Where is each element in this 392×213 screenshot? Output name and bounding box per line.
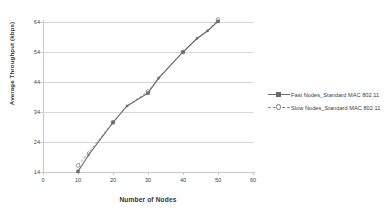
series-line <box>78 21 218 171</box>
data-point-marker <box>88 154 90 156</box>
legend-item-fast-nodes[interactable]: Fast Nodes_Standard MAC 802.11 <box>268 88 392 101</box>
legend-label-slow-nodes: Slow Nodes_Standard MAC 802.11 <box>291 105 380 111</box>
data-point-marker <box>207 30 209 32</box>
legend-label-fast-nodes: Fast Nodes_Standard MAC 802.11 <box>291 92 379 98</box>
data-point-marker <box>126 105 128 107</box>
data-point-marker <box>76 164 80 168</box>
series-fast-nodes <box>76 20 219 173</box>
legend-key-circle-dashed-icon <box>268 103 290 112</box>
data-point-marker <box>216 20 219 23</box>
legend-key-square-solid-icon <box>268 90 290 99</box>
data-point-marker <box>76 170 79 173</box>
legend-item-slow-nodes[interactable]: Slow Nodes_Standard MAC 802.11 <box>268 101 392 114</box>
data-point-marker <box>196 38 198 40</box>
legend: Fast Nodes_Standard MAC 802.11 Slow Node… <box>268 88 392 114</box>
data-point-marker <box>158 77 160 79</box>
data-point-marker <box>181 50 184 53</box>
data-point-marker <box>146 91 149 94</box>
data-point-marker <box>111 121 114 124</box>
chart-figure: Average Throughput (kbps) Number of Node… <box>0 0 392 213</box>
